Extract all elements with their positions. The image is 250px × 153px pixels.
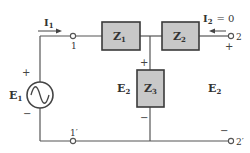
- source-plus: +: [22, 67, 30, 78]
- impedance-z1: Z1: [102, 22, 140, 50]
- out-plus: +: [225, 41, 233, 52]
- current-out-arrow-icon: [209, 29, 226, 34]
- current-in-label: I1: [44, 17, 54, 30]
- impedance-z3: Z3: [137, 70, 164, 107]
- terminal-2-prime-label: 2′: [236, 137, 244, 147]
- mid-plus: +: [140, 57, 148, 68]
- out-voltage-label: E2: [208, 82, 221, 96]
- impedance-z2: Z2: [162, 22, 199, 50]
- source-minus: −: [23, 108, 31, 119]
- terminal-2-label: 2: [236, 32, 242, 42]
- mid-voltage-label: E2: [117, 82, 130, 96]
- terminal-2-prime: [228, 138, 233, 143]
- source-label: E1: [9, 89, 22, 103]
- mid-minus: −: [140, 112, 148, 123]
- wires: [40, 36, 229, 141]
- out-minus: −: [220, 125, 228, 136]
- ac-source-icon: [27, 82, 53, 108]
- terminal-2: [228, 33, 233, 38]
- terminal-1-prime: [70, 138, 75, 143]
- terminal-1-label: 1: [71, 41, 77, 51]
- terminal-1-prime-label: 1′: [70, 128, 78, 138]
- circuit-diagram: Z1 Z2 Z3 + − E1 I1 I2= 0 1 1′ 2 2′ + − E…: [0, 0, 250, 153]
- current-out-label: I2= 0: [203, 13, 234, 26]
- terminal-1: [70, 33, 75, 38]
